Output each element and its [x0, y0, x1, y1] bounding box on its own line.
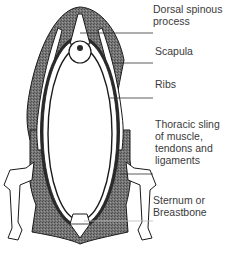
vertebral-body	[69, 41, 91, 63]
spinal-canal	[77, 45, 83, 51]
left-humerus	[4, 162, 34, 240]
diagram-root: Dorsal spinous process Scapula Ribs Thor…	[0, 0, 232, 254]
label-dorsal-spinous-process: Dorsal spinous process	[153, 3, 222, 27]
label-ribs: Ribs	[155, 78, 176, 90]
label-thoracic-sling: Thoracic sling of muscle, tendons and li…	[155, 118, 220, 166]
label-sternum: Sternum or Breastbone	[153, 194, 207, 218]
label-scapula: Scapula	[155, 45, 193, 57]
thoracic-cavity	[48, 48, 112, 220]
